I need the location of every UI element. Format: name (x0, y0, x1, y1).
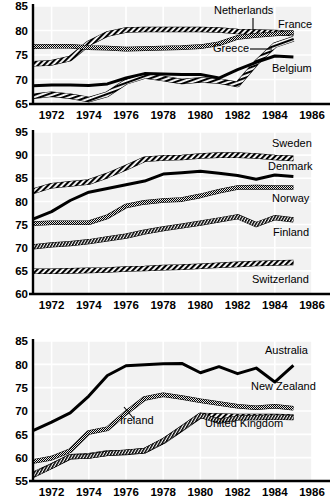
x-axis-tick-label: 1976 (113, 109, 139, 121)
x-axis-tick-label: 1982 (225, 299, 251, 311)
x-axis-tick-label: 1982 (225, 486, 251, 498)
y-axis-tick-label: 60 (15, 288, 28, 300)
series-label-greece: Greece (213, 42, 249, 54)
x-axis-tick-label: 1986 (299, 109, 325, 121)
series-label-denmark: Denmark (268, 160, 313, 172)
y-axis-tick-label: 65 (15, 265, 28, 277)
chart-canvas: 6570758085197219741976197819801982198419… (0, 0, 330, 503)
series-label-ireland: Ireland (120, 414, 154, 426)
y-axis-tick-label: 55 (15, 475, 28, 487)
series-label-france: France (278, 18, 312, 30)
y-axis-tick-label: 65 (15, 98, 28, 110)
x-axis-tick-label: 1984 (262, 109, 288, 121)
series-label-netherlands: Netherlands (214, 4, 274, 16)
chart-panel-3: 5560657075808519721974197619781980198219… (15, 335, 330, 498)
x-axis-tick-label: 1974 (76, 109, 102, 121)
chart-panel-1: 6570758085197219741976197819801982198419… (15, 0, 330, 121)
x-axis-tick-label: 1978 (150, 299, 176, 311)
x-axis-tick-label: 1972 (39, 299, 65, 311)
x-axis-tick-label: 1986 (299, 486, 325, 498)
x-axis-tick-label: 1978 (150, 486, 176, 498)
y-axis-tick-label: 70 (15, 74, 28, 86)
series-label-switzerland: Switzerland (252, 273, 309, 285)
x-axis-tick-label: 1974 (76, 486, 102, 498)
x-axis-tick-label: 1978 (150, 109, 176, 121)
y-axis-tick-label: 75 (15, 49, 28, 61)
x-axis-tick-label: 1986 (299, 299, 325, 311)
x-axis-tick-label: 1980 (188, 486, 214, 498)
y-axis-tick-label: 90 (15, 149, 28, 161)
y-axis-tick-label: 95 (15, 126, 28, 138)
y-axis-tick-label: 70 (15, 405, 28, 417)
series-label-new-zealand: New Zealand (251, 380, 316, 392)
x-axis-tick-label: 1972 (39, 486, 65, 498)
series-label-finland: Finland (273, 226, 309, 238)
x-axis-tick-label: 1982 (225, 109, 251, 121)
x-axis-tick-label: 1980 (188, 109, 214, 121)
y-axis-tick-label: 85 (15, 172, 28, 184)
y-axis-tick-label: 80 (15, 359, 28, 371)
x-axis-tick-label: 1976 (113, 486, 139, 498)
x-axis-tick-label: 1972 (39, 109, 65, 121)
series-label-australia: Australia (265, 344, 309, 356)
y-axis-tick-label: 85 (15, 0, 28, 12)
y-axis-tick-label: 75 (15, 382, 28, 394)
x-axis-tick-label: 1980 (188, 299, 214, 311)
series-label-belgium: Belgium (272, 62, 312, 74)
x-axis-tick-label: 1984 (262, 299, 288, 311)
multi-panel-line-chart: 6570758085197219741976197819801982198419… (0, 0, 330, 503)
series-label-united-kingdom: United Kingdom (205, 417, 283, 429)
series-label-sweden: Sweden (272, 137, 312, 149)
y-axis-tick-label: 75 (15, 219, 28, 231)
series-label-norway: Norway (272, 192, 310, 204)
y-axis-tick-label: 85 (15, 335, 28, 347)
x-axis-tick-label: 1974 (76, 299, 102, 311)
y-axis-tick-label: 60 (15, 452, 28, 464)
chart-panel-2: 6065707580859095197219741976197819801982… (15, 126, 330, 311)
x-axis-tick-label: 1984 (262, 486, 288, 498)
y-axis-tick-label: 65 (15, 429, 28, 441)
y-axis-tick-label: 70 (15, 242, 28, 254)
x-axis-tick-label: 1976 (113, 299, 139, 311)
panels-layer: 6570758085197219741976197819801982198419… (15, 0, 330, 498)
y-axis-tick-label: 80 (15, 25, 28, 37)
y-axis-tick-label: 80 (15, 196, 28, 208)
